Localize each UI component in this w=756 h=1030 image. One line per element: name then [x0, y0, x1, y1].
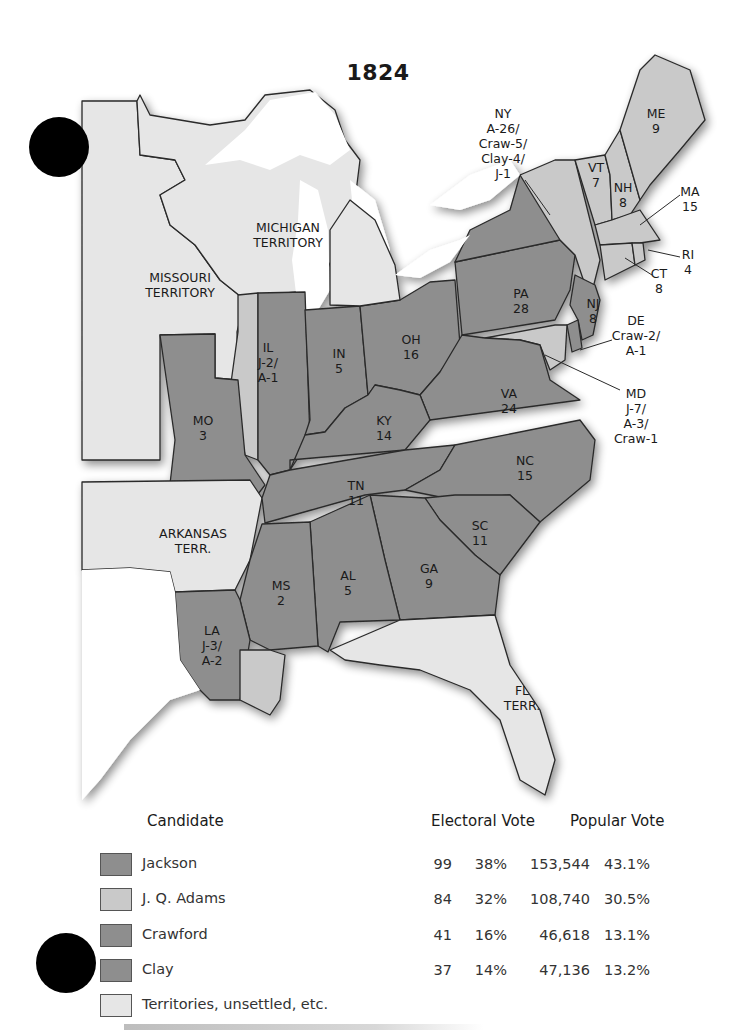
svg-text:DECraw-2/A-1: DECraw-2/A-1 [612, 313, 661, 358]
svg-text:PA28: PA28 [513, 286, 529, 316]
swatch-territories [100, 994, 132, 1017]
legend-row-jackson: Jackson 99 38% 153,544 43.1% [100, 853, 756, 881]
popular-votes: 46,618 [520, 927, 590, 943]
state-louisiana-adams [240, 650, 285, 715]
popular-pct: 13.2% [600, 962, 650, 978]
bottom-divider [124, 1024, 484, 1030]
svg-text:CT8: CT8 [651, 266, 668, 296]
svg-text:MISSOURITERRITORY: MISSOURITERRITORY [144, 270, 215, 300]
electoral-pct: 16% [465, 927, 507, 943]
svg-text:KY14: KY14 [376, 413, 392, 443]
popular-votes: 47,136 [520, 962, 590, 978]
label-missouri-terr-1: MISSOURI [149, 270, 211, 285]
swatch-clay [100, 959, 132, 982]
swatch-adams [100, 888, 132, 911]
svg-text:MDJ-7/A-3/Craw-1: MDJ-7/A-3/Craw-1 [614, 386, 658, 446]
popular-pct: 30.5% [600, 891, 650, 907]
state-rhode-island [632, 243, 645, 265]
svg-text:OH16: OH16 [401, 332, 420, 362]
svg-text:SC11: SC11 [472, 518, 489, 548]
electoral-votes: 37 [420, 962, 452, 978]
svg-text:MA15: MA15 [680, 184, 700, 214]
popular-pct: 43.1% [600, 856, 650, 872]
electoral-pct: 32% [465, 891, 507, 907]
candidate-name: Crawford [142, 926, 208, 942]
svg-text:TN11: TN11 [347, 478, 365, 508]
svg-text:VA24: VA24 [501, 386, 518, 416]
candidate-name: J. Q. Adams [142, 890, 226, 906]
svg-text:RI4: RI4 [682, 247, 694, 277]
swatch-crawford [100, 924, 132, 947]
candidate-name: Jackson [142, 855, 197, 871]
legend-row-clay: Clay 37 14% 47,136 13.2% [100, 959, 756, 987]
svg-text:LAJ-3/A-2: LAJ-3/A-2 [201, 623, 223, 668]
electoral-votes: 41 [420, 927, 452, 943]
popular-votes: 108,740 [520, 891, 590, 907]
candidate-name: Clay [142, 961, 174, 977]
electoral-pct: 38% [465, 856, 507, 872]
legend-header-candidate: Candidate [147, 812, 224, 830]
electoral-votes: 84 [420, 891, 452, 907]
region-michigan-lower [330, 200, 400, 306]
svg-text:MICHIGANTERRITORY: MICHIGANTERRITORY [252, 220, 323, 250]
punch-hole-top [29, 117, 89, 177]
legend-row-crawford: Crawford 41 16% 46,618 13.1% [100, 924, 756, 952]
popular-votes: 153,544 [520, 856, 590, 872]
popular-pct: 13.1% [600, 927, 650, 943]
legend-row-territories: Territories, unsettled, etc. [100, 994, 756, 1022]
punch-hole-bottom [36, 933, 96, 993]
candidate-name: Territories, unsettled, etc. [142, 996, 328, 1012]
swatch-jackson [100, 853, 132, 876]
legend-header-electoral: Electoral Vote [431, 812, 535, 830]
election-map: MISSOURITERRITORY MICHIGANTERRITORY ARKA… [0, 0, 756, 820]
electoral-votes: 99 [420, 856, 452, 872]
legend-row-adams: J. Q. Adams 84 32% 108,740 30.5% [100, 888, 756, 916]
svg-text:NC15: NC15 [516, 453, 534, 483]
electoral-pct: 14% [465, 962, 507, 978]
legend-header-popular: Popular Vote [570, 812, 664, 830]
